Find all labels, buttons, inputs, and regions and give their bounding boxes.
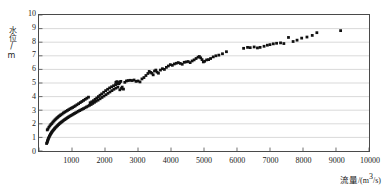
plot-area	[38, 14, 370, 152]
y-tick-label: 6	[10, 65, 36, 73]
y-tick-label: 3	[10, 107, 36, 115]
chart-figure: 水位/m 012345678910 1000200030004000500060…	[0, 0, 389, 196]
x-axis-title-main: 流量	[340, 175, 358, 185]
scatter-points	[39, 15, 369, 151]
y-tick-label: 0	[10, 148, 36, 156]
x-axis-title: 流量/(m3/s)	[340, 172, 381, 186]
y-tick-label: 1	[10, 134, 36, 142]
y-tick-label: 4	[10, 93, 36, 101]
y-tick-label: 10	[10, 10, 36, 18]
y-tick-label: 8	[10, 38, 36, 46]
y-tick-label: 7	[10, 51, 36, 59]
x-tick-label: 10000	[347, 157, 389, 165]
y-tick-label: 9	[10, 24, 36, 32]
x-axis-unit-open: /(m	[358, 176, 369, 185]
x-axis-unit-close: /s)	[373, 176, 381, 185]
y-tick-label: 5	[10, 79, 36, 87]
y-tick-label: 2	[10, 120, 36, 128]
x-axis-tick-labels: 1000200030004000500060007000800090001000…	[0, 157, 389, 169]
